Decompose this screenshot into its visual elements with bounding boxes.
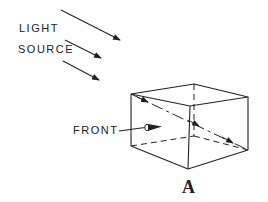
light-ray-3 <box>63 61 99 80</box>
diagram-canvas: LIGHT SOURCE FRONT A <box>0 0 268 202</box>
diagonal-ray <box>131 94 248 150</box>
front-label: FRONT <box>73 125 118 136</box>
front-pointer-arrow <box>119 124 162 131</box>
figure-label: A <box>182 178 195 196</box>
light-ray-1 <box>61 10 120 40</box>
light-label: LIGHT <box>19 23 59 34</box>
source-label: SOURCE <box>18 44 74 55</box>
